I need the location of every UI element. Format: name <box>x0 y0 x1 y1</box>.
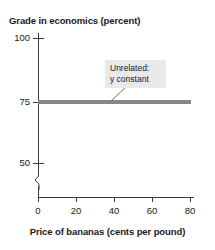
annotation-line-2: y constant <box>110 74 161 85</box>
x-axis-title: Price of bananas (cents per pound) <box>0 226 215 237</box>
x-tick-label-60: 60 <box>137 205 167 216</box>
x-axis-line <box>38 197 194 198</box>
chart-title: Grade in economics (percent) <box>9 15 140 26</box>
x-tick-label-0: 0 <box>23 205 53 216</box>
chart-container: Grade in economics (percent) 100 75 50 0… <box>0 0 215 250</box>
y-tick-label-50: 50 <box>2 158 30 168</box>
y-axis-break-icon <box>31 170 47 190</box>
x-tick-40 <box>114 197 115 202</box>
x-tick-label-20: 20 <box>61 205 91 216</box>
x-tick-20 <box>76 197 77 202</box>
y-tick-label-100: 100 <box>2 33 30 43</box>
annotation-line-1: Unrelated: <box>110 63 161 74</box>
x-tick-label-80: 80 <box>175 205 205 216</box>
y-tick-50 <box>33 163 44 164</box>
y-tick-label-75: 75 <box>2 97 30 107</box>
x-tick-60 <box>152 197 153 202</box>
x-tick-0 <box>38 197 39 202</box>
x-tick-80 <box>190 197 191 202</box>
x-tick-label-40: 40 <box>99 205 129 216</box>
y-tick-100 <box>33 38 44 39</box>
annotation-callout: Unrelated: y constant <box>105 60 166 88</box>
